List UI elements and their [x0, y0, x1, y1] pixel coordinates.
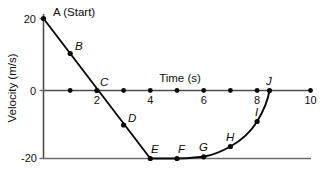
point-label-h: H: [226, 131, 235, 143]
point-label-i: I: [255, 106, 259, 118]
point-label-b: B: [75, 40, 83, 52]
chart-canvas: 20 0 -20 2 4 6 8 10 Time (s) Velocity (m…: [0, 0, 323, 173]
data-point-c: [94, 88, 99, 93]
point-label-d: D: [128, 112, 136, 124]
y-tick-label-20: 20: [24, 13, 36, 25]
y-tick-label-0: 0: [30, 85, 36, 97]
x-tick-label-10: 10: [304, 94, 316, 106]
point-label-g: G: [199, 141, 208, 153]
point-label-e: E: [151, 143, 159, 155]
zero-line-marker-1: [68, 88, 73, 93]
data-point-a: [41, 16, 46, 21]
data-point-b: [68, 51, 73, 56]
zero-line-marker-7: [228, 88, 233, 93]
zero-line-marker-10: [308, 88, 313, 93]
data-point-i: [255, 119, 260, 124]
x-tick-label-2: 2: [94, 94, 100, 106]
start-annotation-label: A (Start): [53, 6, 95, 18]
zero-line-marker-6: [201, 88, 206, 93]
zero-line-marker-8: [255, 88, 260, 93]
x-axis-title: Time (s): [159, 72, 201, 84]
velocity-time-chart: 20 0 -20 2 4 6 8 10 Time (s) Velocity (m…: [0, 0, 323, 173]
x-tick-label-8: 8: [254, 94, 260, 106]
zero-line-marker-3: [121, 88, 126, 93]
x-tick-label-6: 6: [201, 94, 207, 106]
data-point-e: [148, 156, 153, 161]
data-point-f: [174, 156, 179, 161]
point-label-c: C: [100, 76, 109, 88]
data-point-d: [121, 122, 126, 127]
data-point-h: [228, 144, 233, 149]
point-label-j: J: [265, 75, 272, 87]
recovery-curve-segment: [150, 91, 269, 159]
data-point-j: [267, 88, 272, 93]
point-label-f: F: [178, 143, 186, 155]
zero-line-marker-4: [148, 88, 153, 93]
data-point-g: [201, 154, 206, 159]
x-tick-label-4: 4: [147, 94, 153, 106]
y-axis-title: Velocity (m/s): [6, 53, 18, 122]
y-tick-label-minus-20: -20: [21, 152, 37, 164]
zero-line-marker-5: [175, 88, 180, 93]
